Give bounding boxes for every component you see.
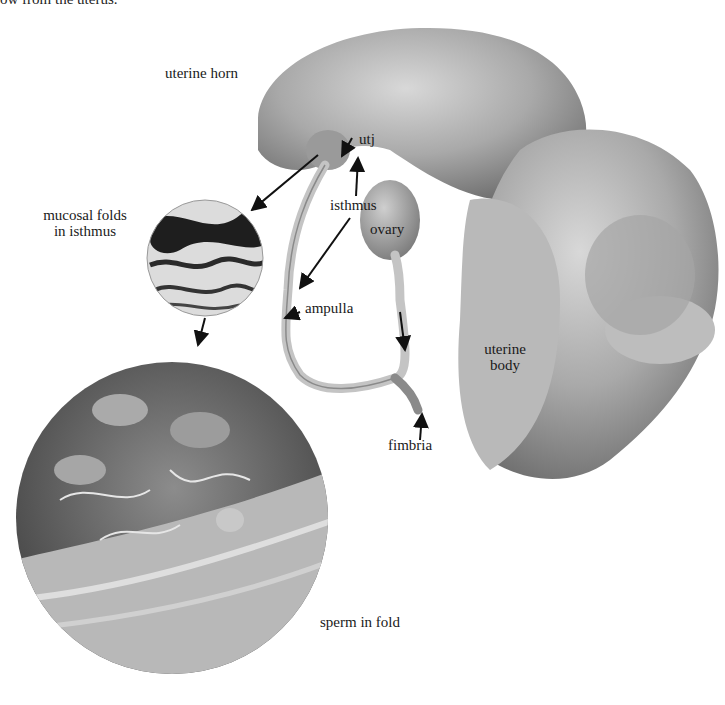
- label-fimbria: fimbria: [388, 437, 432, 453]
- label-uterine-body-line1: uterine: [475, 341, 535, 357]
- label-uterine-body-line2: body: [475, 357, 535, 373]
- sperm-in-fold-micrograph: [14, 360, 334, 680]
- figure-artwork: [0, 0, 725, 705]
- label-ovary: ovary: [370, 221, 404, 237]
- label-utj: utj: [359, 131, 375, 147]
- gross-anatomy-photo: [258, 28, 719, 479]
- label-mucosal-folds-line2: in isthmus: [30, 223, 140, 239]
- label-ampulla: ampulla: [305, 300, 353, 316]
- label-uterine-body: uterine body: [475, 341, 535, 373]
- label-mucosal-folds: mucosal folds in isthmus: [30, 207, 140, 239]
- label-sperm-in-fold: sperm in fold: [320, 614, 400, 630]
- label-isthmus: isthmus: [330, 197, 377, 213]
- label-uterine-horn: uterine horn: [165, 65, 238, 81]
- label-mucosal-folds-line1: mucosal folds: [30, 207, 140, 223]
- mucosal-folds-micrograph: [145, 198, 265, 318]
